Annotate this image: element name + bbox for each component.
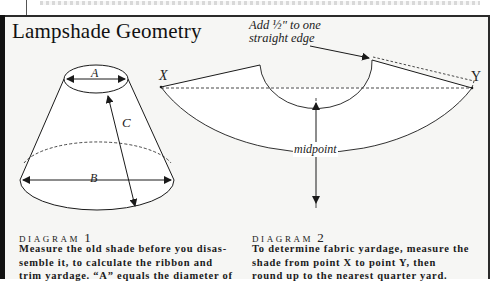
label-x: X (159, 68, 168, 84)
caption-line: Measure the old shade before you disas- (19, 242, 233, 256)
label-midpoint: midpoint (293, 142, 338, 157)
label-y: Y (471, 69, 481, 85)
annotation-line-2: straight edge (249, 32, 321, 45)
caption-line: shade from point X to point Y, then (252, 256, 469, 270)
label-b: B (90, 171, 97, 186)
caption-line: round up to the nearest quarter yard. (252, 269, 469, 283)
diagram1-cone (20, 65, 174, 210)
diagram1-caption: Measure the old shade before you disas- … (19, 242, 233, 283)
annotation-add-half-inch: Add ½" to one straight edge (249, 19, 321, 45)
caption-line: trim yardage. “A” equals the diameter of (19, 269, 233, 283)
label-c: C (122, 115, 131, 131)
diagram2-caption: To determine fabric yardage, measure the… (252, 242, 469, 283)
label-a: A (91, 66, 98, 81)
caption-line: To determine fabric yardage, measure the (252, 242, 469, 256)
diagram2-pattern (160, 46, 474, 208)
caption-line: semble it, to calculate the ribbon and (19, 256, 233, 270)
